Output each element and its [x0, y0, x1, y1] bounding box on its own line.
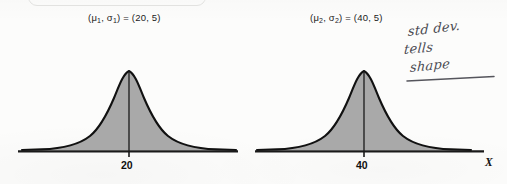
plot-canvas [0, 0, 507, 184]
curve-1-sigma-symbol: σ [107, 12, 113, 23]
curve-2-mu-subscript: 2 [319, 17, 323, 24]
x-tick-label-20: 20 [121, 159, 133, 171]
curve-2-values: ) = (40, 5) [339, 12, 383, 23]
x-tick-label-40: 40 [356, 159, 368, 171]
curve-1-parameter-label: (μ1, σ1) = (20, 5) [88, 12, 161, 23]
curve-2-sigma-subscript: 2 [335, 17, 339, 24]
x-axis-title: X [485, 156, 493, 168]
curve-2-parameter-label: (μ2, σ2) = (40, 5) [310, 12, 383, 23]
handwritten-underline [407, 77, 494, 81]
curve-1-sigma-subscript: 1 [113, 17, 117, 24]
curve-2-sigma-symbol: σ [329, 12, 335, 23]
curve-1-mu-subscript: 1 [97, 17, 101, 24]
curve-1-values: ) = (20, 5) [117, 12, 161, 23]
normal-distributions-figure: (μ1, σ1) = (20, 5) (μ2, σ2) = (40, 5) 20… [0, 0, 507, 184]
